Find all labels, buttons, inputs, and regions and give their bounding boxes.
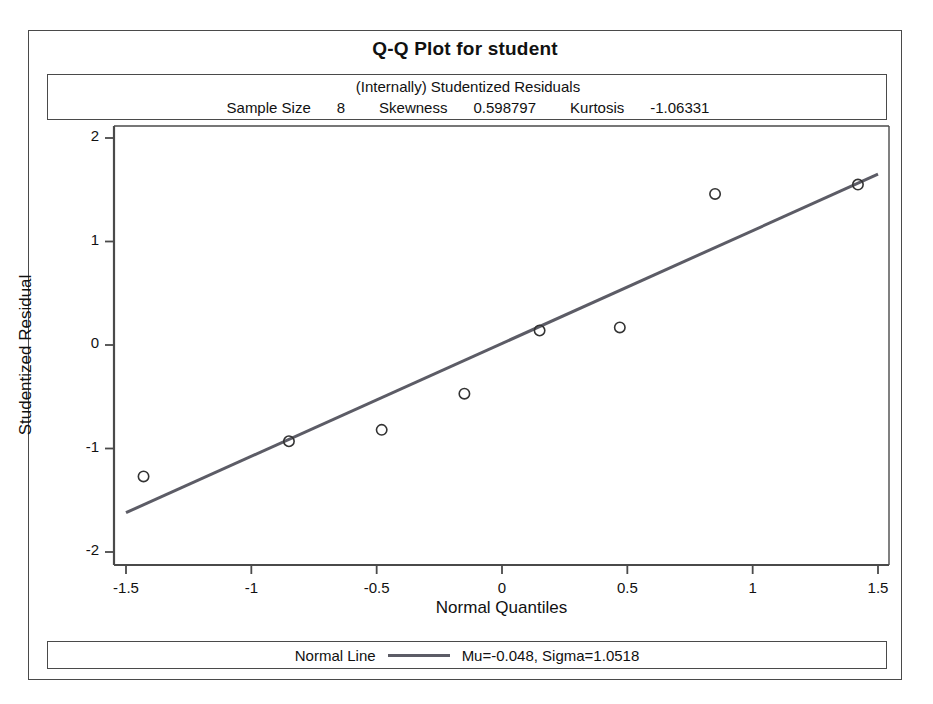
- x-tick-label: 1: [713, 579, 793, 596]
- legend-series-label: Normal Line: [295, 647, 376, 664]
- statistics-box: (Internally) Studentized Residuals Sampl…: [47, 74, 887, 120]
- y-tick-label: 2: [19, 127, 99, 144]
- y-tick-label: -2: [19, 541, 99, 558]
- x-tick-label: -1: [211, 579, 291, 596]
- x-tick-label: 1.5: [838, 579, 918, 596]
- x-tick-label: -0.5: [337, 579, 417, 596]
- x-tick-label: 0.5: [587, 579, 667, 596]
- page-title: Q-Q Plot for student: [28, 38, 902, 60]
- kurtosis-value: -1.06331: [650, 99, 709, 116]
- legend-line-swatch: [388, 654, 450, 657]
- kurtosis-label: Kurtosis: [570, 99, 624, 116]
- legend-entry: Normal Line Mu=-0.048, Sigma=1.0518: [295, 647, 640, 664]
- legend: Normal Line Mu=-0.048, Sigma=1.0518: [47, 641, 887, 669]
- y-tick-label: 0: [19, 334, 99, 351]
- skewness-value: 0.598797: [473, 99, 536, 116]
- statistics-row: Sample Size 8 Skewness 0.598797 Kurtosis…: [48, 99, 888, 116]
- x-tick-label: -1.5: [86, 579, 166, 596]
- sample-size-value: 8: [337, 99, 345, 116]
- statistics-heading: (Internally) Studentized Residuals: [48, 78, 888, 95]
- sample-size-label: Sample Size: [227, 99, 311, 116]
- x-tick-label: 0: [462, 579, 542, 596]
- qq-plot-screenshot: Q-Q Plot for student (Internally) Studen…: [0, 0, 933, 704]
- y-tick-label: 1: [19, 231, 99, 248]
- x-axis-title: Normal Quantiles: [114, 598, 889, 618]
- skewness-label: Skewness: [379, 99, 447, 116]
- legend-params-label: Mu=-0.048, Sigma=1.0518: [462, 647, 640, 664]
- y-tick-label: -1: [19, 438, 99, 455]
- y-axis-title: Studentized Residual: [16, 205, 36, 505]
